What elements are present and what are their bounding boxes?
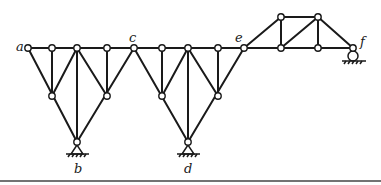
label-d: d	[184, 161, 192, 176]
truss-diagram: a b c d e f	[0, 0, 381, 185]
label-a: a	[16, 39, 24, 54]
node-d	[185, 139, 191, 145]
label-f: f	[359, 34, 367, 49]
truss-members	[28, 17, 353, 142]
label-e: e	[235, 30, 243, 45]
node-b	[74, 139, 80, 145]
label-c: c	[129, 30, 137, 45]
roller-support-f	[342, 51, 366, 64]
node-a	[25, 45, 31, 51]
truss-nodes	[25, 14, 356, 145]
label-b: b	[74, 161, 82, 176]
node-f	[350, 45, 356, 51]
pin-support-d	[177, 145, 200, 157]
node-c	[131, 45, 137, 51]
pin-support-b	[66, 145, 89, 157]
node-e	[241, 45, 247, 51]
